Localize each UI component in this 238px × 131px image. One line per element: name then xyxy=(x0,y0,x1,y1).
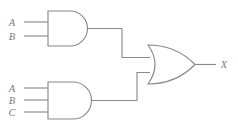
logic-circuit-diagram: A B A B C X xyxy=(0,0,238,131)
and-gate-top xyxy=(24,11,122,46)
output-label-x: X xyxy=(220,59,228,70)
wire-route-top-to-or xyxy=(122,29,150,58)
and-gate-bottom-body xyxy=(48,82,92,119)
wire-route-bottom-to-or xyxy=(137,73,150,101)
or-gate xyxy=(148,45,216,84)
and-gate-top-body xyxy=(48,11,88,46)
and-gate-bottom xyxy=(24,82,137,119)
input-label-b-bottom: B xyxy=(9,95,16,106)
input-label-a-bottom: A xyxy=(8,83,16,94)
input-label-b-top: B xyxy=(9,31,16,42)
or-gate-body xyxy=(148,45,195,84)
input-label-c-bottom: C xyxy=(8,107,16,118)
input-label-a-top: A xyxy=(8,17,16,28)
circuit-canvas: A B A B C X xyxy=(0,0,238,131)
